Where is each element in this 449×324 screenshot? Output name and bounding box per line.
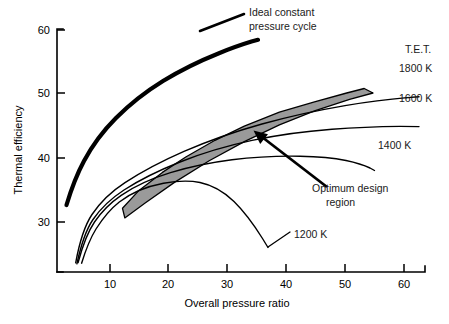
y-axis-spine: [57, 29, 63, 272]
x-tick-label-40: 40: [280, 278, 292, 290]
x-axis-tick-labels: 10 20 30 40 50 60: [104, 278, 410, 290]
y-tick-label-50: 50: [38, 87, 50, 99]
y-tick-label-40: 40: [38, 152, 50, 164]
chart-figure: 60 50 40 30 10 20 30 40 50 60 Overall pr…: [0, 0, 449, 324]
arrow-shaft: [262, 137, 327, 187]
optimum-region-label-line2: region: [326, 196, 355, 208]
optimum-region-label-line1: Optimum design: [312, 182, 389, 194]
series-label-1400k: 1400 K: [378, 139, 411, 151]
series-label-1800k: 1800 K: [399, 62, 432, 74]
y-axis-ticks: [57, 30, 65, 222]
x-tick-label-20: 20: [162, 278, 174, 290]
thermal-efficiency-chart: 60 50 40 30 10 20 30 40 50 60 Overall pr…: [0, 0, 449, 324]
x-axis-title: Overall pressure ratio: [184, 297, 289, 309]
x-tick-label-60: 60: [398, 278, 410, 290]
ideal-cycle-label-line1: Ideal constant: [249, 6, 314, 18]
curve-1200k: [82, 181, 268, 263]
axis-frame: [57, 29, 425, 272]
x-tick-label-50: 50: [339, 278, 351, 290]
series-label-1200k: 1200 K: [294, 228, 327, 240]
ideal-cycle-leader-line: [200, 14, 244, 31]
x-axis-ticks: [110, 264, 404, 272]
tet-header-label: T.E.T.: [405, 43, 431, 55]
tet-curves: [76, 97, 419, 264]
series-label-1600k: 1600 K: [399, 92, 432, 104]
x-tick-label-30: 30: [221, 278, 233, 290]
leader-1200k: [268, 232, 290, 247]
y-axis-tick-labels: 60 50 40 30: [38, 24, 50, 228]
curve-1800k: [76, 97, 419, 263]
ideal-cycle-label-line2: pressure cycle: [249, 20, 317, 32]
y-axis-title: Thermal efficiency: [12, 105, 24, 195]
x-axis-spine: [57, 266, 425, 272]
y-tick-label-30: 30: [38, 216, 50, 228]
x-tick-label-10: 10: [104, 278, 116, 290]
optimum-region-arrow: [254, 131, 328, 188]
y-tick-label-60: 60: [38, 24, 50, 36]
